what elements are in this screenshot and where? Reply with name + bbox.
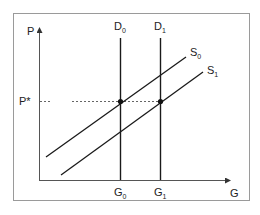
y-axis-label: P [27,25,34,37]
diagram-frame [14,14,250,201]
g0-label: G0 [114,186,127,200]
x-axis-label: G [230,187,239,199]
d0-label: D0 [114,20,126,34]
equilibrium-point-0 [118,99,123,104]
supply-demand-diagram: P G P* D0 D1 G0 G1 S0 S1 [0,0,260,215]
s0-label: S0 [190,46,201,60]
g1-label: G1 [154,186,167,200]
price-level-label: P* [19,95,31,107]
d1-label: D1 [154,20,166,34]
supply-curve-s0 [46,57,186,157]
supply-curve-s1 [61,72,203,175]
s1-label: S1 [207,64,218,78]
equilibrium-point-1 [158,99,163,104]
